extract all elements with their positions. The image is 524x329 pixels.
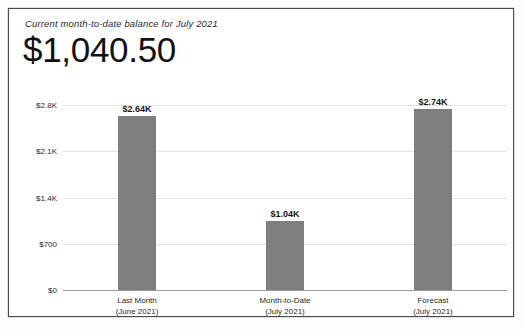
bar-group[interactable]: $2.74KForecast(July 2021) [358,105,508,290]
bar[interactable] [118,116,156,290]
current-balance-value: $1,040.50 [23,29,176,71]
balance-bar-chart: $2.8K$2.1K$1.4K$700$0 $2.64KLast Month(J… [9,93,513,317]
bar-group[interactable]: $2.64KLast Month(June 2021) [62,105,212,290]
x-axis-label: Forecast(July 2021) [358,295,508,317]
y-axis-tick-label: $2.8K [36,101,57,110]
x-axis-category-name: Forecast [358,295,508,306]
x-axis-category-period: (July 2021) [358,306,508,317]
x-axis-category-name: Month-to-Date [210,295,360,306]
y-axis-tick-label: $2.1K [36,147,57,156]
bar-group[interactable]: $1.04KMonth-to-Date(July 2021) [210,105,360,290]
y-axis-tick-label: $1.4K [36,193,57,202]
chart-plot-area: $2.8K$2.1K$1.4K$700$0 $2.64KLast Month(J… [63,105,507,290]
page-title: Current month-to-date balance for July 2… [25,18,218,29]
y-axis-tick-label: $0 [48,286,57,295]
bar-value-label: $1.04K [210,209,360,219]
gridline-0: $0 [63,290,507,291]
x-axis-category-name: Last Month [62,295,212,306]
balance-summary-card: Current month-to-date balance for July 2… [8,8,514,317]
bar-value-label: $2.74K [358,97,508,107]
bar-value-label: $2.64K [62,104,212,114]
x-axis-category-period: (July 2021) [210,306,360,317]
bar[interactable] [266,221,304,290]
x-axis-label: Last Month(June 2021) [62,295,212,317]
chart-bars: $2.64KLast Month(June 2021)$1.04KMonth-t… [63,105,507,290]
screenshot-root: Current month-to-date balance for July 2… [0,0,524,329]
x-axis-label: Month-to-Date(July 2021) [210,295,360,317]
x-axis-category-period: (June 2021) [62,306,212,317]
bar[interactable] [414,109,452,290]
y-axis-tick-label: $700 [39,239,57,248]
